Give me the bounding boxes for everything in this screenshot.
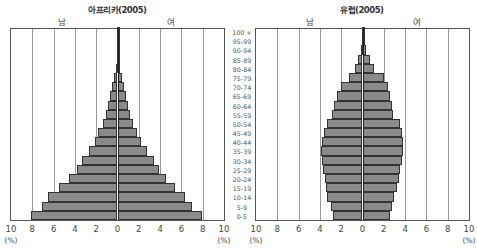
bar-female — [363, 110, 394, 119]
bar-female — [363, 192, 395, 201]
bar-male — [326, 183, 362, 192]
bar-female — [363, 55, 370, 64]
age-group-label: 65-69 — [230, 93, 254, 100]
age-group-label: 15-19 — [230, 185, 254, 192]
bar-female — [363, 101, 393, 110]
x-tick-label: 4 — [317, 224, 322, 234]
age-group-label: 25-29 — [230, 167, 254, 174]
x-tick-label: 10 — [251, 224, 262, 234]
bar-female — [118, 101, 129, 110]
x-tick-label: 8 — [200, 224, 205, 234]
bar-female — [363, 183, 397, 192]
bar-male — [331, 202, 363, 211]
x-tick-label: 4 — [402, 224, 407, 234]
bar-male — [48, 192, 117, 201]
bar-male — [327, 192, 362, 201]
age-group-label: 80-84 — [230, 66, 254, 73]
bar-female — [363, 82, 389, 91]
x-tick-label: 10 — [464, 224, 475, 234]
gridline — [320, 29, 321, 220]
bar-male — [103, 119, 118, 128]
gridline — [54, 29, 55, 220]
x-tick-label: 8 — [445, 224, 450, 234]
x-tick-label: 10 — [219, 224, 230, 234]
bar-male — [42, 202, 118, 211]
label-male-europe: 남 — [306, 15, 314, 27]
gridline — [277, 29, 278, 220]
bar-female — [363, 156, 402, 165]
age-group-label: 85-89 — [230, 57, 254, 64]
bar-female — [363, 146, 403, 155]
bar-female — [363, 202, 393, 211]
bar-female — [363, 91, 391, 100]
x-tick-label: 6 — [424, 224, 429, 234]
bar-female — [118, 119, 134, 128]
x-tick-label: 6 — [179, 224, 184, 234]
age-group-label: 55-59 — [230, 112, 254, 119]
bar-female — [363, 137, 403, 146]
bar-male — [110, 91, 117, 100]
bar-male — [321, 146, 363, 155]
gridline — [448, 29, 449, 220]
bar-female — [363, 128, 402, 137]
age-group-label: 20-24 — [230, 176, 254, 183]
age-group-label: 60-64 — [230, 103, 254, 110]
bar-male — [77, 165, 117, 174]
x-tick-label: 4 — [72, 224, 77, 234]
chart-title-europe: 유럽(2005) — [340, 3, 383, 15]
gridline — [203, 29, 204, 220]
x-tick-label: 2 — [93, 224, 98, 234]
label-female-europe: 여 — [413, 15, 421, 27]
x-tick-label: 8 — [275, 224, 280, 234]
bar-male — [106, 110, 118, 119]
bar-female — [363, 119, 400, 128]
unit-label: (%) — [5, 236, 18, 245]
label-female-africa: 여 — [167, 15, 175, 27]
bar-male — [324, 128, 362, 137]
gridline — [181, 29, 182, 220]
gridline — [299, 29, 300, 220]
bar-female — [118, 192, 185, 201]
age-group-label: 95-99 — [230, 38, 254, 45]
bar-male — [31, 211, 117, 220]
bar-male — [59, 183, 118, 192]
plot-area-africa — [10, 28, 225, 221]
bar-male — [325, 174, 362, 183]
bar-male — [108, 101, 118, 110]
bar-male — [355, 64, 362, 73]
bar-female — [118, 165, 160, 174]
bar-male — [323, 165, 362, 174]
age-group-label: 70-74 — [230, 84, 254, 91]
bar-female — [118, 183, 176, 192]
gridline — [426, 29, 427, 220]
age-group-label: 35-39 — [230, 148, 254, 155]
age-group-label: 5-9 — [230, 204, 254, 211]
bar-female — [363, 64, 375, 73]
bar-male — [69, 174, 118, 183]
x-tick-label: 6 — [296, 224, 301, 234]
gridline — [32, 29, 33, 220]
age-group-label: 30-34 — [230, 158, 254, 165]
bar-female — [118, 128, 137, 137]
chart-title-africa: 아프리카(2005) — [88, 3, 146, 15]
x-tick-label: 2 — [381, 224, 386, 234]
age-group-label: 45-49 — [230, 130, 254, 137]
unit-label: (%) — [250, 236, 263, 245]
bar-female — [118, 110, 131, 119]
bar-female — [118, 211, 202, 220]
unit-label: (%) — [463, 236, 476, 245]
bar-male — [82, 156, 117, 165]
plot-area-europe — [255, 28, 470, 221]
bar-female — [118, 137, 141, 146]
bar-male — [322, 137, 362, 146]
bar-male — [341, 82, 362, 91]
bar-female — [118, 174, 167, 183]
bar-male — [333, 211, 363, 220]
bar-female — [118, 146, 148, 155]
bar-male — [89, 146, 118, 155]
x-tick-label: 10 — [6, 224, 17, 234]
bar-female — [118, 91, 127, 100]
age-group-label: 50-54 — [230, 121, 254, 128]
x-tick-label: 8 — [30, 224, 35, 234]
bar-female — [363, 165, 400, 174]
